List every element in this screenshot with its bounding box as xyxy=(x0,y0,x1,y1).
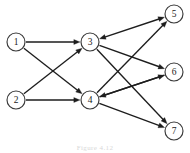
node-label-4: 4 xyxy=(88,95,93,105)
graph-node-1[interactable]: 1 xyxy=(7,33,25,51)
node-label-1: 1 xyxy=(14,37,19,47)
edge-3-to-6 xyxy=(99,45,161,67)
arrowhead-icon-6-4 xyxy=(99,93,106,98)
figure-caption: Figure 4.12 xyxy=(0,144,190,152)
node-label-5: 5 xyxy=(172,9,177,19)
edge-1-to-4 xyxy=(24,48,80,92)
arrowhead-icon-1-3 xyxy=(74,40,80,45)
graph-node-2[interactable]: 2 xyxy=(7,91,25,109)
node-label-7: 7 xyxy=(172,126,177,136)
directed-graph-diagram: 1234567 xyxy=(0,0,190,153)
graph-node-3[interactable]: 3 xyxy=(81,33,99,51)
arrowhead-icon-2-4 xyxy=(74,98,80,103)
node-label-2: 2 xyxy=(14,95,19,105)
nodes-layer: 1234567 xyxy=(7,5,183,140)
node-label-6: 6 xyxy=(172,67,177,77)
edge-2-to-3 xyxy=(24,50,80,94)
graph-node-4[interactable]: 4 xyxy=(81,91,99,109)
edge-3-to-5 xyxy=(104,18,161,37)
arrowhead-icon-3-5 xyxy=(158,17,165,22)
edge-4-to-5 xyxy=(97,24,165,93)
node-label-3: 3 xyxy=(88,37,93,47)
edge-3-to-7 xyxy=(97,49,165,121)
graph-node-5[interactable]: 5 xyxy=(165,5,183,23)
arrowhead-icon-3-6 xyxy=(158,64,165,69)
edges-layer xyxy=(24,17,167,128)
figure-container: 1234567 Figure 4.12 xyxy=(0,0,190,153)
graph-node-7[interactable]: 7 xyxy=(165,122,183,140)
arrowhead-icon-4-7 xyxy=(158,123,165,128)
arrowhead-icon-5-3 xyxy=(99,35,106,40)
graph-node-6[interactable]: 6 xyxy=(165,63,183,81)
